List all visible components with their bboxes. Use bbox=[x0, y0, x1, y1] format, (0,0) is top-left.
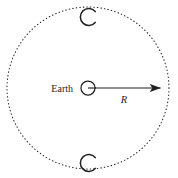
moon-crescent-bottom bbox=[80, 155, 95, 172]
earth-label: Earth bbox=[51, 83, 73, 94]
diagram-canvas: Earth R bbox=[0, 0, 178, 178]
moon-crescent-top bbox=[80, 9, 95, 26]
physics-orbit-diagram: Earth R bbox=[0, 0, 178, 178]
radius-label: R bbox=[120, 94, 128, 105]
